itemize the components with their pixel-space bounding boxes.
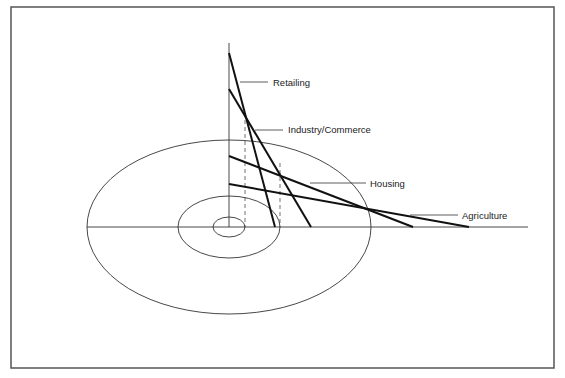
curve-labels: Retailing Industry/Commerce Housing Agri…: [273, 77, 507, 221]
label-industry-commerce: Industry/Commerce: [288, 124, 371, 135]
bid-rent-diagram: Retailing Industry/Commerce Housing Agri…: [0, 0, 565, 378]
curve-housing: [229, 156, 413, 227]
axes: [87, 43, 528, 227]
bid-rent-curves: [229, 53, 469, 227]
label-agriculture: Agriculture: [462, 210, 507, 221]
frame: [11, 7, 554, 368]
label-housing: Housing: [370, 178, 405, 189]
label-retailing: Retailing: [273, 77, 310, 88]
